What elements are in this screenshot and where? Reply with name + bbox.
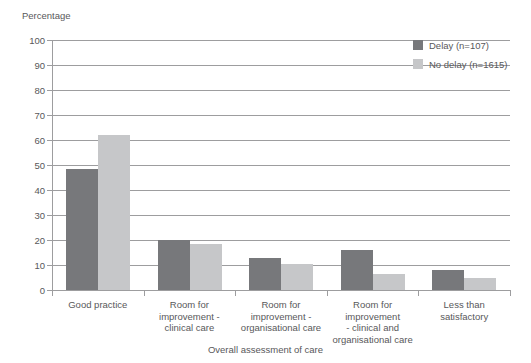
y-tick-label-70: 70 [34,110,45,121]
gridline-0 [52,290,510,291]
x-category-label: Good practice [52,299,144,311]
y-tick-label-90: 90 [34,60,45,71]
x-category-label-line: Room for [235,299,327,311]
x-category-label-line: - clinical and [327,322,419,334]
y-tick-label-10: 10 [34,260,45,271]
bar [98,135,130,290]
bar [432,270,464,290]
x-category-label-line: satisfactory [418,311,510,323]
x-category-label: Room forimprovement- clinical andorganis… [327,299,419,345]
legend-label: No delay (n=1615) [429,59,507,70]
y-tick-label-100: 100 [29,35,45,46]
y-tick-label-60: 60 [34,135,45,146]
legend-label: Delay (n=107) [429,40,489,51]
x-category-label-line: clinical care [144,322,236,334]
legend-swatch-icon [413,59,423,69]
x-axis-tick [327,290,328,296]
x-category-label-line: improvement - [235,311,327,323]
x-category-label: Room forimprovement -clinical care [144,299,236,334]
legend-item: No delay (n=1615) [413,56,507,72]
x-category-label-line: improvement - [144,311,236,323]
x-axis-tick [418,290,419,296]
x-category-label: Less thansatisfactory [418,299,510,322]
y-tick-label-40: 40 [34,185,45,196]
plot-area: 0102030405060708090100 [52,40,510,290]
x-category-label: Room forimprovement -organisational care [235,299,327,334]
legend: Delay (n=107)No delay (n=1615) [413,37,507,75]
y-tick-label-30: 30 [34,210,45,221]
y-tick-label-0: 0 [40,285,45,296]
bar-group [327,40,419,290]
bar-group [418,40,510,290]
bar-series-container [52,40,510,290]
x-category-label-line: organisational care [235,322,327,334]
x-category-label-line: improvement [327,311,419,323]
bar [249,258,281,291]
bar [373,274,405,290]
x-category-label-line: Room for [327,299,419,311]
x-axis-tick [52,290,53,296]
bar-group [52,40,144,290]
x-category-label-line: Less than [418,299,510,311]
y-tick-label-80: 80 [34,85,45,96]
legend-swatch-icon [413,40,423,50]
x-axis-title: Overall assessment of care [0,344,531,355]
bar [158,240,190,290]
bar [190,244,222,290]
x-axis-tick [144,290,145,296]
y-axis-title: Percentage [22,10,71,21]
bar [464,278,496,291]
x-category-label-line: Good practice [52,299,144,311]
bar-group [235,40,327,290]
bar-chart-figure: Percentage 0102030405060708090100 Good p… [0,0,531,363]
bar-group [144,40,236,290]
bar [341,250,373,290]
bar [281,264,313,290]
bar [66,169,98,290]
x-category-label-line: Room for [144,299,236,311]
y-tick-label-20: 20 [34,235,45,246]
legend-item: Delay (n=107) [413,37,507,53]
x-axis-tick [235,290,236,296]
y-tick-label-50: 50 [34,160,45,171]
x-axis-tick [510,290,511,296]
